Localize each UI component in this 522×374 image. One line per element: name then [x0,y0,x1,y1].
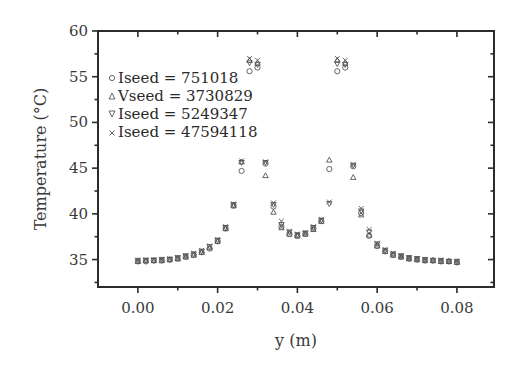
legend-item-vseed-3730829: Vseed = 3730829 [109,87,253,105]
x-point [367,227,372,232]
legend: Iseed = 751018 Vseed = 3730829 Iseed = 5… [109,69,257,141]
y-tick-label: 60 [69,22,88,40]
x-tick-label: 0.00 [121,299,154,317]
x-marker-icon [110,131,115,136]
triangle-down-marker-icon [109,111,115,117]
y-tick-label: 50 [69,113,88,131]
legend-label: Iseed = 751018 [118,69,238,87]
x-tick-label: 0.02 [201,299,234,317]
x-tick-label: 0.04 [281,299,314,317]
y-tick-label: 35 [69,251,88,269]
y-tick-label: 40 [69,205,88,223]
triangle-up-point [271,209,276,214]
triangle-down-point [247,61,252,66]
circle-point [335,69,340,74]
circle-point [247,69,252,74]
legend-label: Vseed = 3730829 [117,87,253,105]
circle-point [239,168,244,173]
x-point [343,58,348,63]
triangle-up-point [351,175,356,180]
y-axis-ticks: 354045505560 [69,22,494,282]
x-tick-label: 0.08 [440,299,473,317]
x-point [255,58,260,63]
circle-point [327,166,332,171]
legend-label: Iseed = 47594118 [118,123,257,141]
y-axis-title: Temperature (°C) [31,88,50,231]
legend-label: Iseed = 5249347 [118,105,248,123]
x-axis-title: y (m) [274,331,317,350]
triangle-up-marker-icon [109,93,115,99]
y-tick-label: 45 [69,159,88,177]
circle-marker-icon [109,75,114,80]
y-tick-label: 55 [69,68,88,86]
triangle-up-point [327,157,332,162]
scatter-chart: 354045505560 0.000.020.040.060.08 y (m) … [0,0,522,374]
triangle-up-point [263,173,268,178]
legend-item-iseed-5249347: Iseed = 5249347 [109,105,248,123]
x-tick-label: 0.06 [360,299,393,317]
legend-item-iseed-47594118: Iseed = 47594118 [110,123,258,141]
legend-item-iseed-751018: Iseed = 751018 [109,69,238,87]
